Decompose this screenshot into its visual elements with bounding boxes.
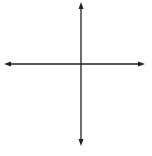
x-axis-left-arrow-icon [4, 62, 11, 67]
x-axis-right-arrow-icon [138, 62, 145, 67]
axes [4, 2, 145, 146]
coordinate-plane [0, 0, 152, 156]
y-axis-up-arrow-icon [79, 2, 84, 9]
y-axis-down-arrow-icon [79, 139, 84, 146]
